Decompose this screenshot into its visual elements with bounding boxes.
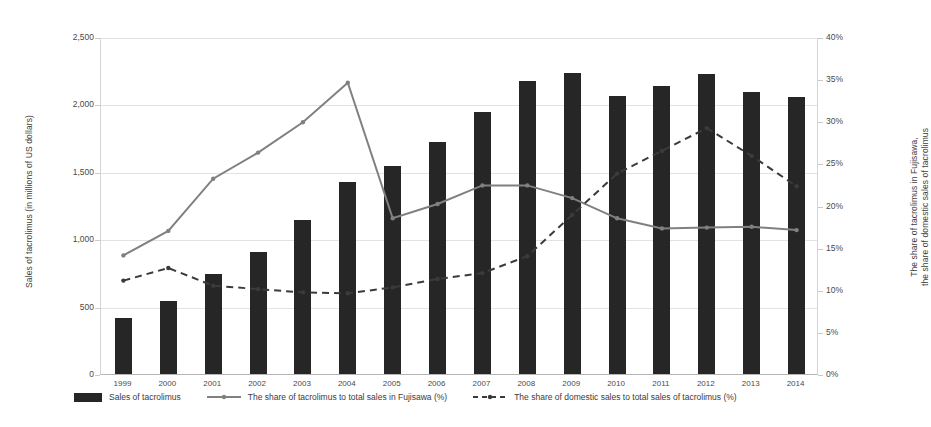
legend-item[interactable]: Sales of tacrolimus xyxy=(74,392,181,402)
y-axis-left-tick-label: 1,500 xyxy=(52,167,94,177)
y-axis-right-tick-label: 10% xyxy=(826,285,868,295)
data-point-marker xyxy=(346,291,350,295)
solid-line-path xyxy=(123,83,796,256)
data-point-marker xyxy=(750,154,754,158)
data-point-marker xyxy=(570,196,574,200)
x-axis-tick-label: 2003 xyxy=(280,379,324,388)
data-point-marker xyxy=(346,81,350,85)
data-point-marker xyxy=(570,213,574,217)
x-axis-tick-label: 2004 xyxy=(325,379,369,388)
y-axis-left-tickmark xyxy=(95,375,100,376)
legend-item[interactable]: The share of domestic sales to total sal… xyxy=(473,392,737,402)
y-axis-right-tick-label: 40% xyxy=(826,32,868,42)
data-point-marker xyxy=(256,287,260,291)
y-axis-right-tick-label: 30% xyxy=(826,116,868,126)
data-point-marker xyxy=(301,290,305,294)
data-point-marker xyxy=(211,284,215,288)
y-axis-right-tick-label: 35% xyxy=(826,74,868,84)
x-axis-tick-label: 2002 xyxy=(235,379,279,388)
x-axis-tick-label: 2000 xyxy=(145,379,189,388)
y-axis-right-tick-label: 15% xyxy=(826,243,868,253)
data-point-marker xyxy=(480,271,484,275)
x-axis-tick-label: 2001 xyxy=(190,379,234,388)
dashed-line-path xyxy=(123,128,796,293)
y-axis-left-tick-label: 500 xyxy=(52,302,94,312)
x-axis-tick-label: 2006 xyxy=(415,379,459,388)
y-axis-right-tick-label: 0% xyxy=(826,369,868,379)
data-point-marker xyxy=(211,177,215,181)
x-axis-tick-label: 2009 xyxy=(549,379,593,388)
data-point-marker xyxy=(794,228,798,232)
x-axis-tick-label: 2005 xyxy=(370,379,414,388)
y-axis-left-tick-label: 1,000 xyxy=(52,234,94,244)
y-axis-left-title: Sales of tacrolimus (in millions of US d… xyxy=(24,77,35,327)
x-axis-tick-label: 1999 xyxy=(100,379,144,388)
y-axis-right-tick-label: 25% xyxy=(826,158,868,168)
data-point-marker xyxy=(615,216,619,220)
y-axis-left-tick-label: 2,500 xyxy=(52,32,94,42)
data-point-marker xyxy=(391,285,395,289)
data-point-marker xyxy=(166,266,170,270)
y-axis-left-tick-label: 2,000 xyxy=(52,99,94,109)
data-point-marker xyxy=(301,120,305,124)
data-point-marker xyxy=(121,278,125,282)
legend-bar-swatch-icon xyxy=(74,393,102,402)
x-axis-tick-label: 2014 xyxy=(774,379,818,388)
data-point-marker xyxy=(660,226,664,230)
data-point-marker xyxy=(794,184,798,188)
data-point-marker xyxy=(750,225,754,229)
y-axis-right-tick-label: 20% xyxy=(826,201,868,211)
legend-label: The share of domestic sales to total sal… xyxy=(514,392,737,402)
legend-label: Sales of tacrolimus xyxy=(109,392,181,402)
data-point-marker xyxy=(166,229,170,233)
y-axis-left-tick-label: 0 xyxy=(52,369,94,379)
plot-area xyxy=(100,38,818,375)
data-point-marker xyxy=(256,150,260,154)
y-axis-right-tick-label: 5% xyxy=(826,327,868,337)
legend-solid-line-icon xyxy=(207,392,241,402)
legend-dashed-line-icon xyxy=(473,392,507,402)
legend-label: The share of tacrolimus to total sales i… xyxy=(248,392,447,402)
y-axis-right-title: The share of tacrolimus in Fujisawa, the… xyxy=(909,82,931,332)
x-axis-tick-label: 2008 xyxy=(504,379,548,388)
data-point-marker xyxy=(705,126,709,130)
chart-legend: Sales of tacrolimusThe share of tacrolim… xyxy=(74,392,737,402)
y-axis-right-tickmark xyxy=(818,375,823,376)
x-axis-tick-label: 2010 xyxy=(594,379,638,388)
data-point-marker xyxy=(525,183,529,187)
legend-item[interactable]: The share of tacrolimus to total sales i… xyxy=(207,392,447,402)
x-axis-tick-label: 2007 xyxy=(459,379,503,388)
line-series xyxy=(101,38,819,375)
x-axis-tick-label: 2011 xyxy=(639,379,683,388)
data-point-marker xyxy=(435,202,439,206)
data-point-marker xyxy=(615,171,619,175)
y-axis-right-title-line1: The share of tacrolimus in Fujisawa, xyxy=(909,82,920,332)
x-axis-tick-label: 2012 xyxy=(684,379,728,388)
data-point-marker xyxy=(121,253,125,257)
data-point-marker xyxy=(480,183,484,187)
data-point-marker xyxy=(660,149,664,153)
x-axis-tick-label: 2013 xyxy=(729,379,773,388)
y-axis-right-title-line2: the share of domestic sales of tacrolimu… xyxy=(920,82,931,332)
data-point-marker xyxy=(705,225,709,229)
data-point-marker xyxy=(391,216,395,220)
data-point-marker xyxy=(435,277,439,281)
data-point-marker xyxy=(525,254,529,258)
